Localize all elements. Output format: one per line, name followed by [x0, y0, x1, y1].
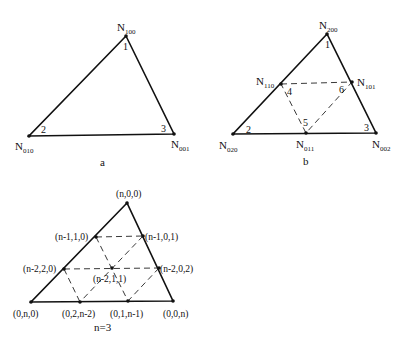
corner-number-4: 4 [287, 86, 292, 97]
corner-number-1: 1 [123, 41, 128, 52]
node-N011 [304, 131, 308, 135]
label-n-101: (n-1,0,1) [145, 232, 178, 243]
label-n-211: (n-2,1,1) [93, 274, 126, 285]
node-N001 [172, 132, 176, 136]
node-00n [171, 299, 175, 303]
label-02n-2: (0,2,n-2) [62, 309, 95, 320]
triangle-n3-outline [31, 203, 173, 302]
label-n-202: (n-2,0,2) [160, 264, 193, 275]
label-n-110: (n-1,1,0) [55, 232, 88, 243]
node-n-211 [110, 266, 114, 270]
label-N001: N001 [171, 138, 190, 153]
node-0n0 [29, 300, 33, 304]
label-N200: N200 [319, 19, 338, 34]
label-n00: (n,0,0) [116, 189, 141, 200]
label-N020: N020 [219, 139, 238, 154]
figure-b: N200 N020 N002 N110 N011 N101 1 2 3 4 5 … [219, 19, 391, 167]
dashed-line [96, 236, 143, 237]
caption-a: a [100, 156, 105, 168]
node-N002 [374, 131, 378, 135]
label-N002: N002 [372, 138, 391, 153]
node-n00 [125, 201, 129, 205]
node-N110 [279, 82, 283, 86]
node-N020 [231, 132, 235, 136]
label-N011: N011 [296, 138, 315, 153]
figure-a: N100 N010 N001 1 2 3 a [15, 21, 190, 168]
corner-number-2: 2 [246, 124, 251, 135]
corner-number-3: 3 [364, 122, 369, 133]
label-0n0: (0,n,0) [13, 309, 38, 320]
dashed-line [64, 269, 80, 302]
dashed-line [128, 268, 159, 301]
corner-number-5: 5 [303, 117, 308, 128]
triangular-element-diagram: N100 N010 N001 1 2 3 a N200 N020 N002 N1… [0, 0, 413, 337]
label-01n-1: (0,1,n-1) [110, 309, 143, 320]
label-N101: N101 [357, 76, 376, 91]
label-00n: (0,0,n) [163, 309, 188, 320]
corner-number-3: 3 [161, 123, 166, 134]
node-n-220 [62, 267, 66, 271]
corner-number-2: 2 [41, 124, 46, 135]
node-N101 [350, 80, 354, 84]
caption-b: b [303, 155, 309, 167]
corner-number-6: 6 [339, 84, 344, 95]
node-N010 [27, 134, 31, 138]
label-n-220: (n-2,2,0) [23, 264, 56, 275]
triangle-a-outline [29, 36, 174, 136]
figure-n3: (n,0,0) (n-1,1,0) (n-1,0,1) (n-2,2,0) (n… [13, 189, 193, 333]
label-N110: N110 [256, 75, 275, 90]
caption-n3: n=3 [94, 321, 112, 333]
node-02n-2 [78, 300, 82, 304]
label-N010: N010 [15, 140, 34, 155]
label-N100: N100 [117, 21, 136, 36]
corner-number-1: 1 [325, 39, 330, 50]
node-01n-1 [126, 299, 130, 303]
node-n-110 [94, 235, 98, 239]
